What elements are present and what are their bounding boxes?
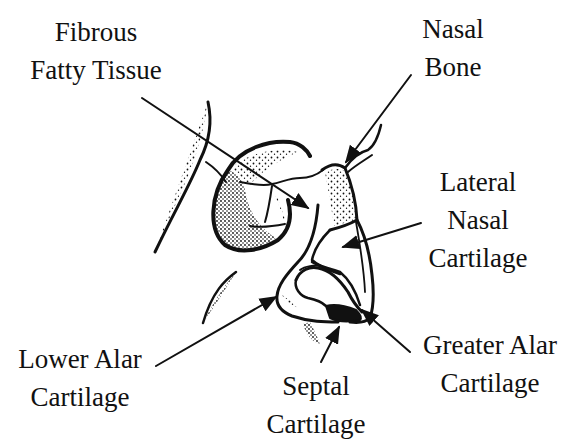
fibrous-fatty-tissue-shape — [206, 142, 323, 251]
alar-cartilage-shape — [278, 268, 362, 345]
leader-nasal-bone — [346, 75, 411, 162]
label-greater-alar-cartilage: Greater Alar Cartilage — [423, 326, 557, 402]
label-line: Nasal — [422, 10, 483, 48]
label-line: Lower Alar — [18, 340, 142, 378]
label-line: Septal — [267, 367, 366, 405]
label-line: Cartilage — [429, 239, 528, 277]
label-line: Lateral — [429, 163, 528, 201]
nasal-bone-shape — [322, 125, 381, 230]
label-lateral-nasal-cartilage: Lateral Nasal Cartilage — [429, 163, 528, 277]
label-line: Cartilage — [267, 405, 366, 443]
label-line: Cartilage — [18, 378, 142, 416]
label-line: Fibrous — [30, 13, 161, 51]
leader-septal-cartilage — [321, 327, 339, 362]
label-nasal-bone: Nasal Bone — [422, 10, 483, 86]
leader-lateral-nasal-cartilage — [343, 223, 421, 247]
label-line: Greater Alar — [423, 326, 557, 364]
label-line: Bone — [422, 48, 483, 86]
label-line: Cartilage — [423, 364, 557, 402]
label-line: Fatty Tissue — [30, 51, 161, 89]
label-line: Nasal — [429, 201, 528, 239]
label-fibrous-fatty-tissue: Fibrous Fatty Tissue — [30, 13, 161, 89]
leader-lower-alar-cartilage — [156, 297, 276, 366]
label-lower-alar-cartilage: Lower Alar Cartilage — [18, 340, 142, 416]
label-septal-cartilage: Septal Cartilage — [267, 367, 366, 443]
cheek-crease — [203, 272, 236, 323]
leader-greater-alar-cartilage — [362, 310, 410, 352]
leader-lines — [142, 75, 421, 366]
nose-anatomy-diagram: Fibrous Fatty Tissue Nasal Bone Lateral … — [0, 0, 571, 448]
